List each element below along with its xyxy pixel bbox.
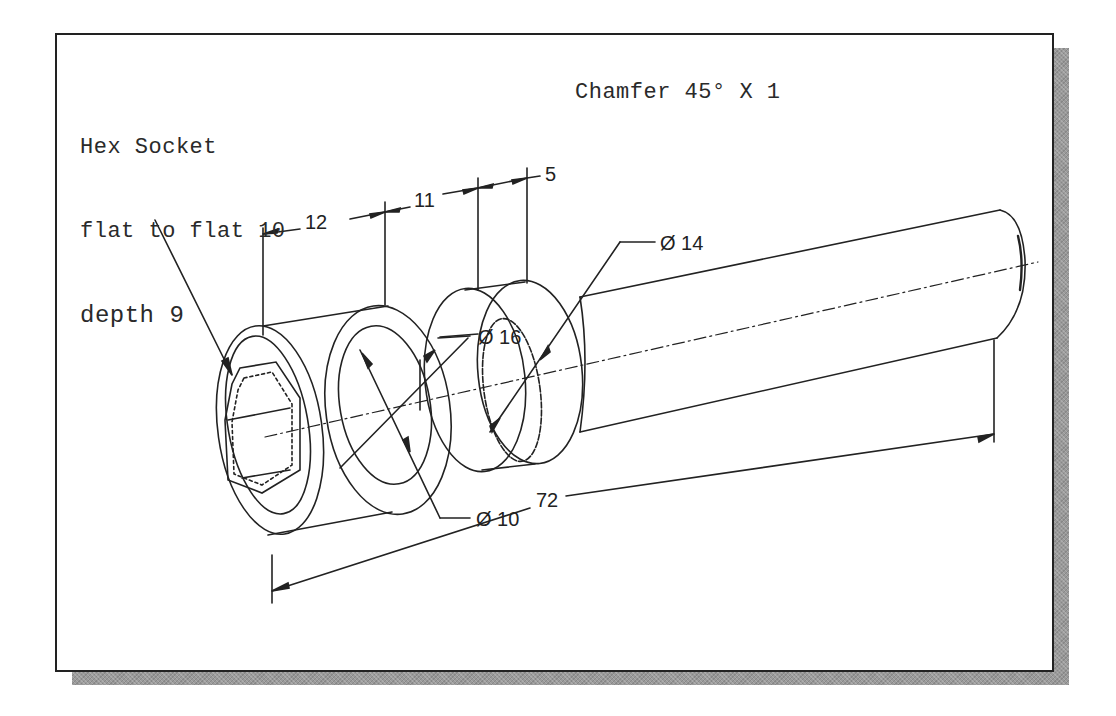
dimension-label-12: 12 <box>305 212 327 232</box>
dimension-label-11: 11 <box>414 190 435 210</box>
dimension-label-diameter-10: Ø 10 <box>476 509 519 529</box>
centerline <box>265 262 1038 437</box>
collar-cylinder <box>416 275 592 477</box>
hex-socket-note-line1: Hex Socket <box>80 134 286 162</box>
dimension-label-diameter-14: Ø 14 <box>660 233 703 253</box>
leader-diameter-10 <box>360 350 470 518</box>
hex-socket-note: Hex Socket flat to flat 10 depth 9 <box>80 78 286 358</box>
dimension-label-5: 5 <box>545 164 556 184</box>
chamfer-note: Chamfer 45° X 1 <box>575 79 781 107</box>
dimension-chain-top <box>263 168 540 335</box>
dimension-72 <box>272 340 994 603</box>
hex-socket-note-line2: flat to flat 10 <box>80 218 286 246</box>
dimension-label-diameter-16: Ø 16 <box>478 327 521 347</box>
shaft-cylinder <box>580 210 1025 432</box>
hex-socket-note-line3: depth 9 <box>80 302 286 330</box>
dimension-label-72: 72 <box>536 490 558 510</box>
